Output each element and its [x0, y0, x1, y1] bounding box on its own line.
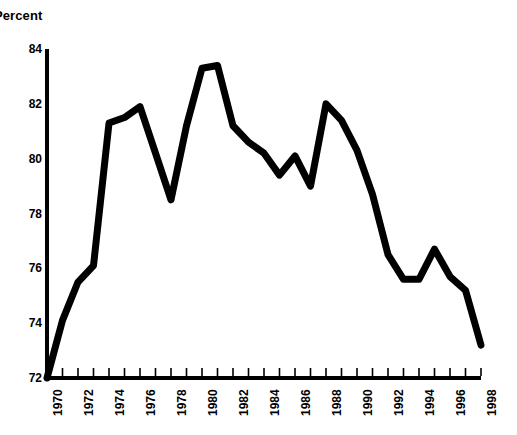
- line-chart: Percent 72747678808284 19701972197419761…: [0, 0, 517, 435]
- x-axis-ticks: [47, 368, 481, 376]
- data-series-line: [47, 65, 481, 378]
- plot-area: [0, 0, 517, 435]
- axis-lines: [45, 49, 481, 378]
